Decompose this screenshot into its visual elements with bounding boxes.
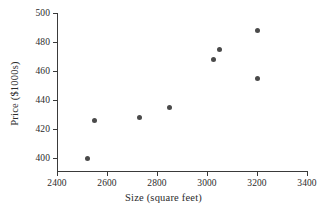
y-tick-label-480: 480: [20, 37, 50, 47]
x-tick-3200: [257, 172, 258, 176]
x-tick-label-3200: 3200: [237, 178, 277, 188]
y-tick-420: [53, 129, 57, 130]
y-tick-500: [53, 13, 57, 14]
y-tick-label-400: 400: [20, 153, 50, 163]
data-point: [167, 105, 172, 110]
y-tick-480: [53, 42, 57, 43]
x-tick-label-3400: 3400: [287, 178, 327, 188]
x-tick-2400: [57, 172, 58, 176]
y-tick-440: [53, 100, 57, 101]
x-tick-label-3000: 3000: [187, 178, 227, 188]
scatter-plot-figure: 400420440460480500 240026002800300032003…: [0, 0, 327, 216]
data-point: [92, 118, 97, 123]
y-tick-label-500: 500: [20, 8, 50, 18]
data-point: [85, 156, 90, 161]
data-point: [217, 47, 222, 52]
x-axis-line: [57, 171, 308, 172]
data-point: [137, 115, 142, 120]
x-tick-label-2400: 2400: [37, 178, 77, 188]
y-tick-label-440: 440: [20, 95, 50, 105]
y-tick-400: [53, 158, 57, 159]
x-tick-2600: [107, 172, 108, 176]
x-axis-title: Size (square feet): [0, 192, 327, 203]
data-point: [211, 57, 216, 62]
x-tick-3000: [207, 172, 208, 176]
x-tick-3400: [307, 172, 308, 176]
y-tick-460: [53, 71, 57, 72]
x-tick-label-2600: 2600: [87, 178, 127, 188]
y-axis-title: Price ($1000s): [9, 29, 20, 159]
y-axis-line: [57, 13, 58, 172]
x-tick-2800: [157, 172, 158, 176]
data-point: [255, 76, 260, 81]
plot-area: 400420440460480500 240026002800300032003…: [0, 0, 327, 216]
data-point: [255, 28, 260, 33]
y-tick-label-420: 420: [20, 124, 50, 134]
x-tick-label-2800: 2800: [137, 178, 177, 188]
y-tick-label-460: 460: [20, 66, 50, 76]
